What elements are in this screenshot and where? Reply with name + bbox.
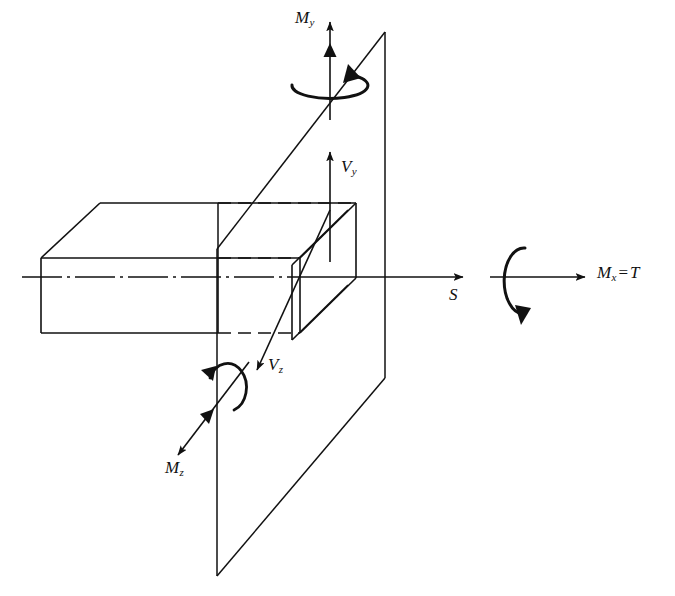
diagram-canvas: [0, 0, 675, 596]
free-body-diagram: My Vy Vz Mz S Mx=T: [0, 0, 675, 596]
beam-solid: [41, 203, 356, 333]
label-moment-z: Mz: [165, 458, 184, 478]
torsion-curl: [504, 248, 531, 325]
moment-y-vector: [324, 22, 337, 120]
label-shear-y: Vy: [341, 157, 357, 177]
shear-z-vector: [257, 210, 330, 370]
label-section-s: S: [449, 285, 458, 305]
label-moment-y: My: [295, 8, 314, 28]
moment-z-curl: [201, 363, 246, 410]
label-torsion: Mx=T: [597, 263, 640, 283]
cutting-plane: [217, 32, 385, 576]
label-shear-z: Vz: [268, 355, 283, 375]
